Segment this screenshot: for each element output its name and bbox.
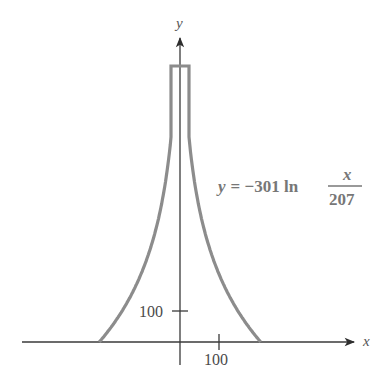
x-tick-label-100: 100 (204, 351, 228, 368)
eq-rest: = −301 ln (231, 177, 299, 196)
eq-numerator: x (342, 165, 352, 184)
x-axis-label: x (362, 333, 370, 349)
equation-label: y= −301 ln x 207 (216, 165, 362, 209)
y-axis-label: y (174, 15, 183, 31)
eq-lhs: y (216, 177, 226, 196)
y-tick-label-100: 100 (139, 303, 163, 320)
eq-denominator: 207 (329, 190, 355, 209)
arch-curve-plot: 100 100 y x y= −301 ln x 207 (0, 0, 389, 389)
svg-text:y= −301 ln: y= −301 ln (216, 177, 299, 196)
